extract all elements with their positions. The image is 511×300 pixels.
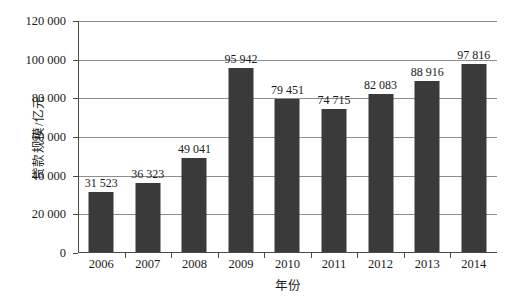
y-tick-label: 20 000 [32, 208, 66, 220]
y-tick-label: 40 000 [32, 170, 66, 182]
y-tick-mark [73, 60, 78, 61]
x-tick-label: 2008 [182, 257, 207, 271]
y-tick-label: 60 000 [32, 131, 66, 143]
y-tick-mark [73, 98, 78, 99]
x-tick-label: 2006 [89, 257, 114, 271]
y-axis-tick-labels: 020 00040 00060 00080 000100 000120 000 [0, 0, 74, 300]
y-tick-label: 0 [60, 247, 66, 259]
bar-chart-figure: 贷款规模/亿元 020 00040 00060 00080 000100 000… [0, 0, 511, 300]
y-tick-label: 80 000 [32, 92, 66, 104]
y-tick-label: 120 000 [25, 15, 66, 27]
y-tick-mark [73, 137, 78, 138]
x-tick-label: 2009 [228, 257, 253, 271]
x-tick-label: 2007 [135, 257, 160, 271]
y-tick-mark [73, 214, 78, 215]
y-tick-mark [73, 253, 78, 254]
x-axis-tick-labels: 200620072008200920102011201220132014 [78, 257, 497, 275]
x-tick-label: 2013 [415, 257, 440, 271]
x-tick-label: 2014 [461, 257, 486, 271]
plot-area: 31 52336 32349 04195 94279 45174 71582 0… [78, 21, 497, 253]
y-tick-mark [73, 21, 78, 22]
figure-caption [0, 293, 511, 300]
x-tick-label: 2010 [275, 257, 300, 271]
y-tick-mark [73, 176, 78, 177]
y-tick-label: 100 000 [25, 54, 66, 66]
x-tick-label: 2012 [368, 257, 393, 271]
plot-frame [78, 21, 497, 253]
x-axis-title: 年份 [78, 275, 497, 294]
x-tick-label: 2011 [322, 257, 347, 271]
